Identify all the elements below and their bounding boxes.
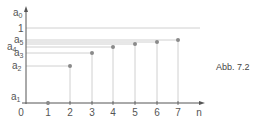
svg-text:4: 4 (110, 107, 116, 118)
svg-text:6: 6 (154, 107, 160, 118)
x-labels: 0 1 2 3 4 5 6 7 n (18, 107, 202, 118)
point-n4 (111, 45, 115, 49)
svg-text:5: 5 (132, 107, 138, 118)
svg-text:1: 1 (45, 107, 51, 118)
x-axis-arrow-icon (199, 101, 205, 105)
svg-text:7: 7 (175, 107, 181, 118)
point-n7 (176, 38, 180, 42)
y-labels: a0 1 a5 a4 a3 a2 a1 (7, 7, 24, 103)
svg-text:a2: a2 (12, 60, 22, 72)
svg-text:a5: a5 (14, 34, 24, 46)
axes (22, 10, 200, 104)
point-n5 (133, 42, 137, 46)
point-n3 (90, 51, 94, 55)
y-axis-arrow-icon (24, 6, 28, 12)
x-axis-label: n (196, 107, 202, 118)
label-one: 1 (18, 23, 24, 34)
svg-text:a3: a3 (14, 47, 24, 59)
svg-text:3: 3 (89, 107, 95, 118)
point-n1 (46, 101, 50, 105)
drop-lines (70, 40, 178, 103)
point-n6 (155, 40, 159, 44)
svg-text:a0: a0 (13, 7, 23, 19)
svg-text:a1: a1 (11, 91, 21, 103)
figure-caption: Abb. 7.2 (216, 62, 250, 72)
point-n2 (68, 64, 72, 68)
svg-text:2: 2 (67, 107, 73, 118)
svg-text:0: 0 (18, 107, 24, 118)
